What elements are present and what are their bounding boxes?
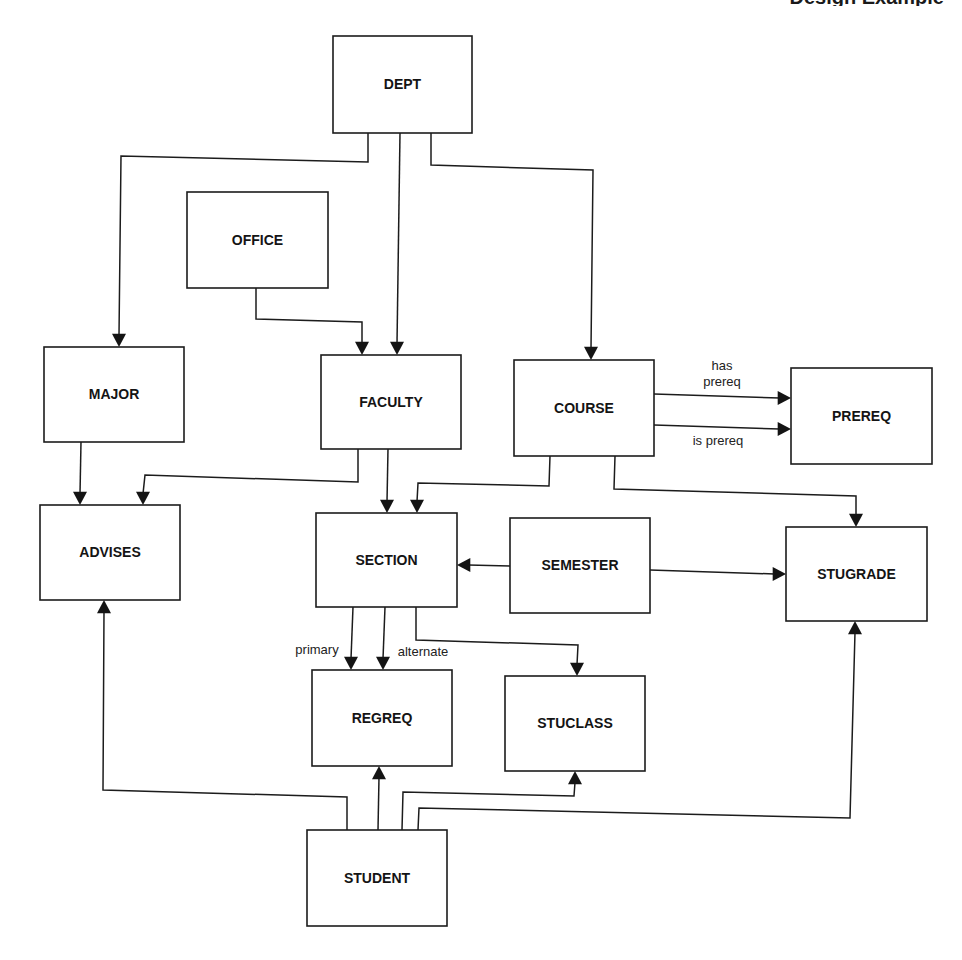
connector-line <box>431 133 593 349</box>
entity-label: STUCLASS <box>537 715 612 731</box>
arrowhead-icon <box>136 492 150 505</box>
connector-line <box>351 607 353 659</box>
arrowhead-icon <box>376 657 390 670</box>
relationship-student-regreq[interactable] <box>372 766 386 830</box>
relationship-course-stugrade[interactable] <box>614 456 863 527</box>
connector-line <box>654 425 780 429</box>
relationship-label: is prereq <box>693 433 744 448</box>
entity-label: FACULTY <box>359 394 423 410</box>
entity-label: SEMESTER <box>541 557 618 573</box>
arrowhead-icon <box>372 766 386 779</box>
relationship-label: primary <box>295 642 339 657</box>
connector-line <box>383 607 385 659</box>
arrowhead-icon <box>773 567 786 581</box>
connector-line <box>397 133 400 344</box>
entity-stuclass[interactable]: STUCLASS <box>505 676 645 771</box>
relationship-course-prereq-has[interactable] <box>654 391 791 405</box>
relationship-dept-course[interactable] <box>431 133 598 360</box>
arrowhead-icon <box>568 771 582 784</box>
arrowhead-icon <box>73 492 87 505</box>
arrowhead-icon <box>390 342 404 355</box>
entity-label: MAJOR <box>89 386 140 402</box>
arrowhead-icon <box>848 621 862 634</box>
arrowhead-icon <box>355 342 369 355</box>
relationship-course-section[interactable] <box>410 456 550 513</box>
relationship-label: alternate <box>398 644 449 659</box>
entity-regreq[interactable]: REGREQ <box>312 670 452 766</box>
entity-course[interactable]: COURSE <box>514 360 654 456</box>
entity-major[interactable]: MAJOR <box>44 347 184 442</box>
relationship-semester-section[interactable] <box>457 558 510 572</box>
connector-line <box>417 456 550 502</box>
entity-prereq[interactable]: PREREQ <box>791 368 932 464</box>
connector-line <box>387 449 388 502</box>
entity-label: OFFICE <box>232 232 283 248</box>
entity-dept[interactable]: DEPT <box>333 36 472 133</box>
relationship-dept-faculty[interactable] <box>390 133 404 355</box>
entity-relationship-diagram: DEPTOFFICEMAJORFACULTYCOURSEPREREQADVISE… <box>0 0 962 960</box>
relationship-section-regreq-primary[interactable] <box>344 607 358 670</box>
entity-stugrade[interactable]: STUGRADE <box>786 527 927 621</box>
relationship-faculty-section[interactable] <box>380 449 394 513</box>
arrowhead-icon <box>778 391 791 405</box>
relationship-section-stuclass[interactable] <box>416 607 584 676</box>
arrowhead-icon <box>112 334 126 347</box>
entity-label: STUGRADE <box>817 566 896 582</box>
entity-faculty[interactable]: FACULTY <box>321 355 461 449</box>
connector-line <box>650 570 775 574</box>
connector-line <box>378 777 379 830</box>
connector-line <box>654 394 780 398</box>
entity-label: REGREQ <box>352 710 413 726</box>
entity-label: STUDENT <box>344 870 411 886</box>
arrowhead-icon <box>570 663 584 676</box>
relationship-label: prereq <box>703 374 741 389</box>
arrowhead-icon <box>457 558 470 572</box>
arrowhead-icon <box>584 347 598 360</box>
connector-line <box>143 449 358 494</box>
arrowhead-icon <box>344 657 358 670</box>
entity-student[interactable]: STUDENT <box>307 830 447 926</box>
entity-section[interactable]: SECTION <box>316 513 457 607</box>
entity-label: PREREQ <box>832 408 891 424</box>
arrowhead-icon <box>97 600 111 613</box>
connector-line <box>468 565 510 566</box>
entity-advises[interactable]: ADVISES <box>40 505 180 600</box>
relationship-student-stuclass[interactable] <box>402 771 582 830</box>
relationship-section-regreq-alternate[interactable] <box>376 607 390 670</box>
entity-label: COURSE <box>554 400 614 416</box>
relationship-office-faculty[interactable] <box>256 288 369 355</box>
connector-line <box>402 782 575 830</box>
entity-semester[interactable]: SEMESTER <box>510 518 650 613</box>
relationship-label: has <box>712 358 733 373</box>
relationship-faculty-advises[interactable] <box>136 449 358 505</box>
relationship-student-advises[interactable] <box>97 600 347 830</box>
entity-label: SECTION <box>355 552 417 568</box>
connector-line <box>256 288 362 344</box>
connector-line <box>80 442 81 494</box>
arrowhead-icon <box>778 422 791 436</box>
relationship-major-advises[interactable] <box>73 442 87 505</box>
connector-line <box>614 456 856 516</box>
relationship-semester-stugrade[interactable] <box>650 567 786 581</box>
arrowhead-icon <box>410 500 424 513</box>
arrowhead-icon <box>380 500 394 513</box>
entity-label: ADVISES <box>79 544 140 560</box>
entity-office[interactable]: OFFICE <box>187 192 328 288</box>
arrowhead-icon <box>849 514 863 527</box>
entity-label: DEPT <box>384 76 422 92</box>
